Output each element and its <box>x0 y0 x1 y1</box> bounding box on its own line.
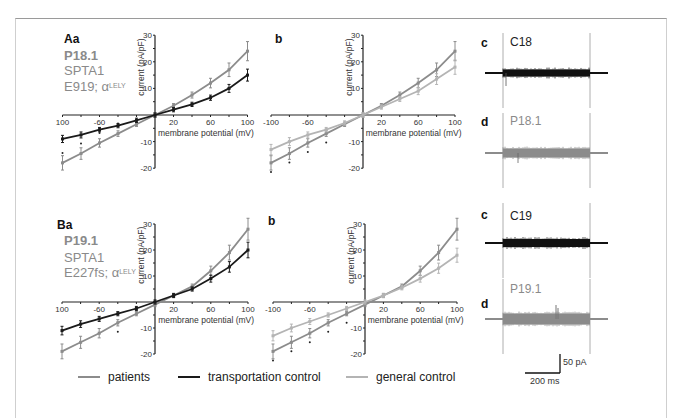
current-trace <box>485 279 608 354</box>
panel-label-Bb: b <box>268 214 275 228</box>
svg-text:60: 60 <box>206 305 215 314</box>
panel-label-Ad: d <box>481 115 488 129</box>
patient-id-label: P19.1 <box>64 233 98 248</box>
iv-chart-1: -100-602060100302010-10-20membrane poten… <box>263 31 462 173</box>
current-trace <box>485 33 608 108</box>
trace-label-P18-1: P18.1 <box>510 114 541 128</box>
svg-text:-60: -60 <box>94 118 106 127</box>
svg-text:60: 60 <box>206 118 215 127</box>
svg-text:100: 100 <box>448 118 462 127</box>
svg-text:100: 100 <box>56 118 70 127</box>
svg-text:-10: -10 <box>140 324 152 333</box>
mutation-label: E919; αLELY <box>64 79 126 95</box>
svg-text:-20: -20 <box>350 350 362 359</box>
svg-text:20: 20 <box>379 305 388 314</box>
svg-text:100: 100 <box>450 305 464 314</box>
svg-text:60: 60 <box>414 118 423 127</box>
panel-label-Ab: b <box>275 32 282 46</box>
svg-text:membrane potential (mV): membrane potential (mV) <box>366 128 462 138</box>
svg-text:-60: -60 <box>93 305 105 314</box>
scale-bar-time-label: 200 ms <box>530 376 560 386</box>
gene-label: SPTA1 <box>64 250 104 266</box>
scale-bar <box>525 354 560 373</box>
svg-text:20: 20 <box>169 305 178 314</box>
svg-text:-60: -60 <box>302 118 314 127</box>
trace-label-C18: C18 <box>510 35 532 49</box>
panel-label-Bd: d <box>481 297 488 311</box>
svg-text:-60: -60 <box>304 305 316 314</box>
svg-text:-20: -20 <box>140 350 152 359</box>
svg-text:current (pA/pF): current (pA/pF) <box>346 226 356 283</box>
svg-text:current (pA/pF): current (pA/pF) <box>136 226 146 283</box>
svg-text:-20: -20 <box>348 164 360 173</box>
legend-label: general control <box>376 370 455 384</box>
legend-swatch <box>78 376 100 378</box>
panel-label-Ba: Ba <box>57 218 72 232</box>
svg-text:60: 60 <box>416 305 425 314</box>
svg-text:-10: -10 <box>140 138 152 147</box>
patient-id-label: P18.1 <box>64 48 98 63</box>
svg-text:-100: -100 <box>265 305 282 314</box>
svg-text:membrane potential (mV): membrane potential (mV) <box>158 128 254 138</box>
current-trace <box>485 203 608 278</box>
current-trace <box>485 113 608 188</box>
legend-swatch <box>178 376 200 378</box>
svg-text:100: 100 <box>241 118 255 127</box>
svg-text:20: 20 <box>377 118 386 127</box>
trace-label-C19: C19 <box>510 209 532 223</box>
svg-text:-10: -10 <box>350 324 362 333</box>
panel-label-Bc: c <box>481 208 488 222</box>
gene-label: SPTA1 <box>64 63 104 79</box>
svg-text:membrane potential (mV): membrane potential (mV) <box>368 315 464 325</box>
scale-bar-current-label: 50 pA <box>563 357 587 367</box>
legend-item-general-control: general control <box>346 370 455 384</box>
iv-chart-3: -100-602060100302010-10-20membrane poten… <box>265 218 464 361</box>
svg-text:current (pA/pF): current (pA/pF) <box>344 38 354 95</box>
svg-text:100: 100 <box>55 305 69 314</box>
legend-label: patients <box>108 370 150 384</box>
mutation-label: E227fs; αLELY <box>64 265 136 281</box>
svg-text:100: 100 <box>241 305 255 314</box>
svg-text:-100: -100 <box>263 118 280 127</box>
legend-label: transportation control <box>208 370 321 384</box>
panel-label-Ac: c <box>481 36 488 50</box>
svg-text:-20: -20 <box>140 164 152 173</box>
svg-text:20: 20 <box>169 118 178 127</box>
panel-label-Aa: Aa <box>64 32 79 46</box>
svg-text:-10: -10 <box>348 138 360 147</box>
legend-item-transportation-control: transportation control <box>178 370 321 384</box>
legend-item-patients: patients <box>78 370 150 384</box>
legend-swatch <box>346 376 368 378</box>
svg-text:current (pA/pF): current (pA/pF) <box>136 38 146 95</box>
svg-text:membrane potential (mV): membrane potential (mV) <box>158 315 254 325</box>
trace-label-P19-1: P19.1 <box>510 282 541 296</box>
